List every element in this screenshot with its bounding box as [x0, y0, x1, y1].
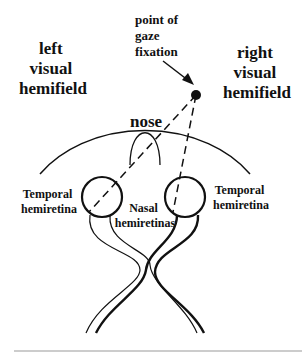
visual-pathway-diagram: left visual hemifield right visual hemif… — [0, 0, 308, 357]
left-eye — [82, 177, 122, 217]
right-nasal-nerve — [96, 215, 177, 333]
left-temporal-label: Temporal hemiretina — [21, 187, 77, 216]
visual-field-arc — [40, 131, 250, 174]
arrowhead-icon — [182, 73, 194, 85]
left-hemifield-label: left visual hemifield — [19, 39, 88, 98]
right-line-of-sight — [173, 95, 196, 212]
right-hemifield-label: right visual hemifield — [223, 43, 292, 102]
left-nasal-nerve — [110, 216, 197, 333]
nose-outline — [130, 133, 160, 165]
right-eye — [165, 177, 205, 217]
right-temporal-label: Temporal hemiretina — [213, 183, 269, 212]
right-temporal-nerve — [155, 215, 204, 333]
fixation-label: point of gaze fixation — [135, 12, 181, 59]
nose-label: nose — [130, 112, 163, 131]
left-temporal-nerve — [86, 215, 140, 333]
